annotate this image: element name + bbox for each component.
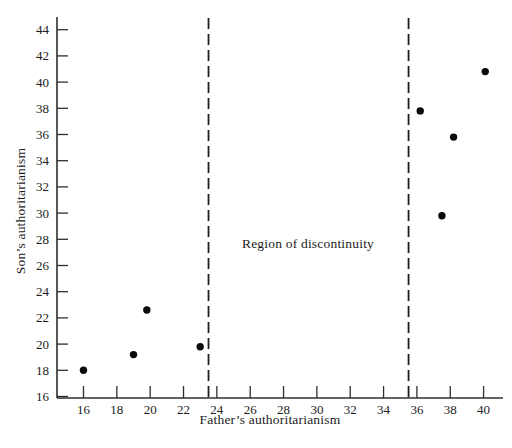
y-tick-label: 32 [36,179,49,194]
y-tick-label: 44 [36,22,50,37]
y-tick-label: 40 [36,75,49,90]
x-tick-label: 38 [444,402,457,417]
x-tick-label: 18 [110,402,123,417]
data-point [80,367,87,374]
x-axis-title: Father’s authoritarianism [200,412,341,428]
y-tick-label: 26 [36,258,50,273]
y-tick-label: 38 [36,101,49,116]
y-tick-label: 36 [36,127,50,142]
data-point [143,306,150,313]
x-tick-label: 34 [377,402,391,417]
x-tick-label: 22 [177,402,190,417]
data-point [450,133,457,140]
y-tick-label: 42 [36,48,49,63]
data-point [438,212,445,219]
data-point [196,343,203,350]
y-tick-label: 20 [36,337,49,352]
y-tick-label: 24 [36,284,50,299]
data-point [417,107,424,114]
y-tick-label: 34 [36,153,50,168]
y-axis-title: Son’s authoritarianism [13,148,29,274]
y-tick-label: 22 [36,310,49,325]
data-point [482,68,489,75]
x-tick-label: 16 [77,402,91,417]
regression-discontinuity-figure: 1618202224262830323436384042441618202224… [0,0,512,448]
region-of-discontinuity-label: Region of discontinuity [242,236,374,252]
data-point [130,351,137,358]
x-tick-label: 20 [144,402,157,417]
y-tick-label: 16 [36,389,50,404]
y-tick-label: 28 [36,232,49,247]
y-tick-label: 30 [36,206,49,221]
plot-canvas: 1618202224262830323436384042441618202224… [0,0,512,448]
x-tick-label: 40 [477,402,490,417]
y-tick-label: 18 [36,363,49,378]
x-tick-label: 32 [344,402,357,417]
x-tick-label: 36 [410,402,424,417]
